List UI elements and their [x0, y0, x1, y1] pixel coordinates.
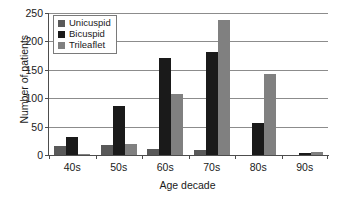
x-axis-tick: [327, 155, 328, 159]
bar-bicuspid-90s: [299, 153, 311, 155]
bar-unicuspid-60s: [147, 149, 159, 155]
x-axis-tick-label: 40s: [64, 162, 81, 173]
bar-bicuspid-70s: [206, 52, 218, 155]
y-axis-title: Number of patients: [19, 9, 30, 149]
bar-bicuspid-80s: [252, 123, 264, 155]
bar-chart: Number of patients Age decade 0501001502…: [0, 0, 337, 197]
x-axis-tick: [49, 155, 50, 159]
bar-group: 80s: [235, 13, 282, 155]
bar-unicuspid-40s: [54, 146, 66, 155]
y-axis-tick-label: 50: [31, 121, 43, 132]
bar-bicuspid-60s: [159, 58, 171, 155]
bar-trileaflet-70s: [218, 20, 230, 155]
y-axis-tick-label: 150: [25, 65, 43, 76]
x-axis-tick-label: 60s: [157, 162, 174, 173]
legend-item-trileaflet: Trileaflet: [58, 40, 111, 50]
x-axis-tick: [235, 155, 236, 159]
bar-trileaflet-80s: [264, 74, 276, 155]
y-axis-tick-label: 200: [25, 36, 43, 47]
bar-unicuspid-70s: [194, 150, 206, 155]
legend-label-trileaflet: Trileaflet: [69, 40, 105, 50]
x-axis-tick-label: 50s: [110, 162, 127, 173]
legend-item-bicuspid: Bicuspid: [58, 29, 111, 39]
bar-trileaflet-50s: [125, 144, 137, 155]
bar-unicuspid-50s: [101, 145, 113, 155]
gridline: [49, 155, 328, 156]
legend-label-unicuspid: Unicuspid: [69, 18, 111, 28]
y-axis-tick-label: 250: [25, 8, 43, 19]
legend-swatch-icon-unicuspid: [58, 20, 65, 27]
x-axis-tick: [142, 155, 143, 159]
y-axis-tick-label: 100: [25, 93, 43, 104]
legend-swatch-icon-trileaflet: [58, 42, 65, 49]
x-axis-tick-label: 80s: [250, 162, 267, 173]
x-axis-tick-label: 90s: [296, 162, 313, 173]
bar-group: 70s: [189, 13, 236, 155]
bar-trileaflet-40s: [78, 154, 90, 155]
x-axis-tick: [96, 155, 97, 159]
legend-item-unicuspid: Unicuspid: [58, 18, 111, 28]
bar-trileaflet-90s: [311, 152, 323, 155]
legend-swatch-icon-bicuspid: [58, 31, 65, 38]
bar-bicuspid-50s: [113, 106, 125, 155]
legend: Unicuspid Bicuspid Trileaflet: [53, 15, 117, 54]
bar-bicuspid-40s: [66, 137, 78, 155]
y-axis-tick: [45, 155, 49, 156]
x-axis-tick-label: 70s: [203, 162, 220, 173]
x-axis-tick: [189, 155, 190, 159]
bar-group: 60s: [142, 13, 189, 155]
legend-label-bicuspid: Bicuspid: [69, 29, 105, 39]
y-axis-tick-label: 0: [37, 150, 43, 161]
bar-trileaflet-60s: [171, 94, 183, 155]
bar-group: 90s: [282, 13, 329, 155]
x-axis-tick: [282, 155, 283, 159]
x-axis-title: Age decade: [48, 180, 327, 191]
